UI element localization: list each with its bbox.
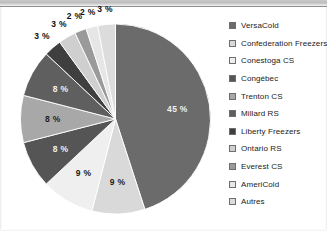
legend-item-label: Congébec	[241, 74, 278, 83]
chart-plot-area: 45 %9 %9 %8 %8 %8 %3 %3 %2 %2 %3 %	[8, 8, 222, 229]
legend-color-swatch-icon	[229, 163, 236, 170]
legend-color-swatch-icon	[229, 22, 236, 29]
legend-item-label: Millard RS	[241, 109, 279, 118]
legend-color-swatch-icon	[229, 75, 236, 82]
legend-item[interactable]: Ontario RS	[229, 140, 327, 158]
legend-color-swatch-icon	[229, 198, 236, 205]
bottom-edge-shading	[0, 229, 327, 231]
legend-item-label: Confederation Freezers	[241, 39, 327, 48]
legend-item[interactable]: Conestoga CS	[229, 52, 327, 70]
legend-color-swatch-icon	[229, 181, 236, 188]
legend-item-label: Autres	[241, 197, 265, 206]
left-edge-shading	[0, 7, 2, 231]
pie-slice-label: 9 %	[110, 177, 126, 187]
legend-item[interactable]: Confederation Freezers	[229, 35, 327, 53]
legend-item-label: Trenton CS	[241, 92, 283, 101]
legend-item[interactable]: AmeriCold	[229, 175, 327, 193]
legend-color-swatch-icon	[229, 110, 236, 117]
pie-slice-label: 8 %	[53, 144, 69, 154]
legend-item[interactable]: Trenton CS	[229, 87, 327, 105]
pie-slice-label: 8 %	[53, 84, 69, 94]
legend-color-swatch-icon	[229, 128, 236, 135]
pie-slice-label: 3 %	[34, 31, 50, 41]
pie-graphic	[8, 8, 222, 229]
legend-item-label: VersaCold	[241, 21, 279, 30]
pie-slice-label: 8 %	[45, 114, 61, 124]
legend-item[interactable]: Liberty Freezers	[229, 123, 327, 141]
legend-color-swatch-icon	[229, 57, 236, 64]
legend-item[interactable]: Autres	[229, 193, 327, 211]
pie-chart-figure: 45 %9 %9 %8 %8 %8 %3 %3 %2 %2 %3 % Versa…	[0, 0, 327, 231]
legend-item-label: Conestoga CS	[241, 56, 294, 65]
legend-item[interactable]: Millard RS	[229, 105, 327, 123]
legend-item[interactable]: Everest CS	[229, 158, 327, 176]
chart-legend: VersaColdConfederation FreezersConestoga…	[229, 17, 327, 211]
legend-item[interactable]: Congébec	[229, 70, 327, 88]
legend-item-label: AmeriCold	[241, 180, 279, 189]
pie-slice-label: 9 %	[76, 168, 92, 178]
legend-item-label: Liberty Freezers	[241, 127, 300, 136]
pie-slice-label: 3 %	[97, 4, 113, 14]
legend-item-label: Ontario RS	[241, 144, 282, 153]
legend-item[interactable]: VersaCold	[229, 17, 327, 35]
pie-slice-label: 45 %	[167, 104, 188, 114]
pie-slice-label: 3 %	[51, 19, 67, 29]
legend-item-label: Everest CS	[241, 162, 282, 171]
legend-color-swatch-icon	[229, 93, 236, 100]
pie-slice-label: 2 %	[80, 7, 96, 17]
top-rule-divider	[0, 6, 327, 7]
pie-wrap: 45 %9 %9 %8 %8 %8 %3 %3 %2 %2 %3 %	[8, 8, 222, 229]
legend-color-swatch-icon	[229, 40, 236, 47]
legend-color-swatch-icon	[229, 145, 236, 152]
